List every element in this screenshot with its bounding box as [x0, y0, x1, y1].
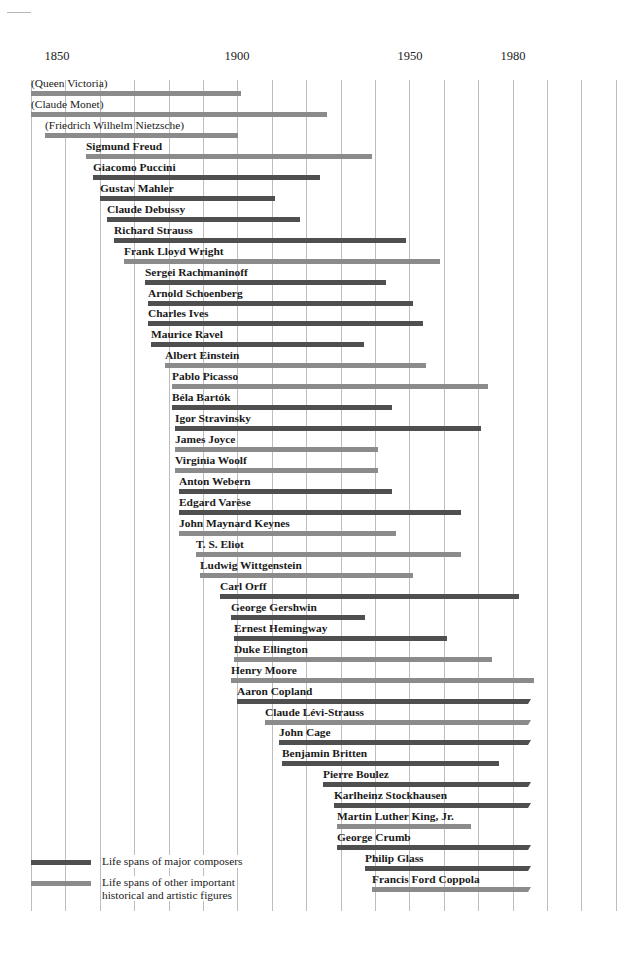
- person-name-label: Sergei Rachmaninoff: [145, 266, 248, 279]
- person-name-label: Richard Strauss: [114, 224, 193, 237]
- person-name-label: (Friedrich Wilhelm Nietzsche): [45, 119, 184, 132]
- composer-lifespan-bar: [231, 615, 365, 620]
- lifespan-row: Aaron Copland: [0, 685, 626, 706]
- person-name-label: Arnold Schoenberg: [148, 287, 243, 300]
- figure-lifespan-bar: [179, 531, 396, 536]
- lifespan-row: Virginia Woolf: [0, 454, 626, 475]
- figure-lifespan-bar: [31, 91, 241, 96]
- lifespan-row: Benjamin Britten: [0, 747, 626, 768]
- lifespan-row: Anton Webern: [0, 475, 626, 496]
- x-axis-tick-label: 1900: [225, 49, 250, 64]
- figure-lifespan-bar: [231, 678, 534, 683]
- figure-lifespan-bar: [196, 552, 461, 557]
- person-name-label: (Claude Monet): [31, 98, 103, 111]
- person-name-label: Francis Ford Coppola: [372, 873, 480, 886]
- lifespan-row: Sigmund Freud: [0, 140, 626, 161]
- person-name-label: Anton Webern: [179, 475, 251, 488]
- lifespan-row: Béla Bartók: [0, 391, 626, 412]
- person-name-label: Ernest Hemingway: [234, 622, 327, 635]
- person-name-label: Maurice Ravel: [151, 328, 223, 341]
- figure-lifespan-bar: [86, 154, 372, 159]
- composer-lifespan-bar: [114, 238, 406, 243]
- lifespan-row: Karlheinz Stockhausen: [0, 789, 626, 810]
- lifespan-row: Arnold Schoenberg: [0, 287, 626, 308]
- composer-lifespan-bar: [100, 196, 275, 201]
- lifespan-row: Edgard Varèse: [0, 496, 626, 517]
- composer-lifespan-bar: [365, 866, 531, 871]
- person-name-label: Virginia Woolf: [175, 454, 247, 467]
- lifespan-row: John Cage: [0, 726, 626, 747]
- figure-lifespan-bar: [175, 447, 378, 452]
- composer-lifespan-bar: [237, 699, 531, 704]
- person-name-label: Aaron Copland: [237, 685, 312, 698]
- composer-lifespan-bar: [282, 761, 499, 766]
- composer-lifespan-bar: [148, 301, 413, 306]
- person-name-label: George Gershwin: [231, 601, 317, 614]
- person-name-label: Béla Bartók: [172, 391, 231, 404]
- figure-lifespan-bar: [172, 384, 488, 389]
- lifespan-row: Giacomo Puccini: [0, 161, 626, 182]
- figure-lifespan-bar: [45, 133, 238, 138]
- figure-lifespan-bar: [165, 363, 426, 368]
- composer-lifespan-bar: [145, 280, 386, 285]
- composer-lifespan-bar: [172, 405, 392, 410]
- legend-swatch-other: [31, 881, 91, 886]
- composer-lifespan-bar: [179, 510, 461, 515]
- lifespan-row: T. S. Eliot: [0, 538, 626, 559]
- lifespan-row: Martin Luther King, Jr.: [0, 810, 626, 831]
- person-name-label: Karlheinz Stockhausen: [334, 789, 447, 802]
- lifespan-row: Francis Ford Coppola: [0, 873, 626, 894]
- figure-lifespan-bar: [265, 720, 531, 725]
- person-name-label: Sigmund Freud: [86, 140, 162, 153]
- lifespan-row: Philip Glass: [0, 852, 626, 873]
- person-name-label: Pablo Picasso: [172, 370, 238, 383]
- x-axis-tick-label: 1980: [501, 49, 526, 64]
- lifespan-row: George Gershwin: [0, 601, 626, 622]
- person-name-label: Pierre Boulez: [323, 768, 389, 781]
- person-name-label: Benjamin Britten: [282, 747, 367, 760]
- person-name-label: Gustav Mahler: [100, 182, 174, 195]
- person-name-label: Henry Moore: [231, 664, 297, 677]
- x-axis-tick-label: 1850: [45, 49, 70, 64]
- person-name-label: Claude Lévi-Strauss: [265, 706, 364, 719]
- lifespan-row: Albert Einstein: [0, 349, 626, 370]
- person-name-label: Frank Lloyd Wright: [124, 245, 224, 258]
- lifespan-row: Charles Ives: [0, 307, 626, 328]
- lifespan-row: Duke Ellington: [0, 643, 626, 664]
- composer-lifespan-bar: [337, 845, 531, 850]
- lifespan-row: Pablo Picasso: [0, 370, 626, 391]
- composer-lifespan-bar: [234, 636, 447, 641]
- person-name-label: Charles Ives: [148, 307, 208, 320]
- lifespan-row: James Joyce: [0, 433, 626, 454]
- person-name-label: (Queen Victoria): [31, 77, 108, 90]
- legend-label-composer: Life spans of major composers: [102, 855, 244, 868]
- composer-lifespan-bar: [93, 175, 320, 180]
- lifespan-row: Henry Moore: [0, 664, 626, 685]
- lifespan-row: Ludwig Wittgenstein: [0, 559, 626, 580]
- lifespan-row: Carl Orff: [0, 580, 626, 601]
- lifespan-row: Igor Stravinsky: [0, 412, 626, 433]
- composer-lifespan-bar: [175, 426, 481, 431]
- lifespan-row: Richard Strauss: [0, 224, 626, 245]
- lifespan-row: (Friedrich Wilhelm Nietzsche): [0, 119, 626, 140]
- lifespan-row: Claude Debussy: [0, 203, 626, 224]
- person-name-label: John Maynard Keynes: [179, 517, 290, 530]
- composer-lifespan-bar: [220, 594, 519, 599]
- legend-label-other: Life spans of other important historical…: [102, 876, 237, 901]
- composer-lifespan-bar: [107, 217, 300, 222]
- figure-lifespan-bar: [372, 887, 531, 892]
- legend-swatch-composer: [31, 860, 91, 865]
- composer-lifespan-bar: [148, 321, 423, 326]
- person-name-label: T. S. Eliot: [196, 538, 244, 551]
- lifespan-row: Gustav Mahler: [0, 182, 626, 203]
- person-name-label: Igor Stravinsky: [175, 412, 251, 425]
- person-name-label: Duke Ellington: [234, 643, 308, 656]
- lifespan-row: Pierre Boulez: [0, 768, 626, 789]
- person-name-label: Martin Luther King, Jr.: [337, 810, 454, 823]
- figure-lifespan-bar: [124, 259, 440, 264]
- lifespan-row: Frank Lloyd Wright: [0, 245, 626, 266]
- person-name-label: Edgard Varèse: [179, 496, 251, 509]
- composer-lifespan-bar: [334, 803, 531, 808]
- person-name-label: Carl Orff: [220, 580, 267, 593]
- figure-lifespan-bar: [337, 824, 471, 829]
